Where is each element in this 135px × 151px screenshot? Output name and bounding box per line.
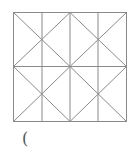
grid-figure: [0, 0, 135, 151]
answer-parenthesis: (: [22, 131, 28, 147]
